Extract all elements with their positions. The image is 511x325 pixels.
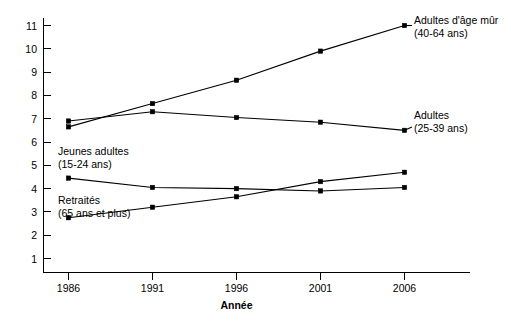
x-axis-title: Année	[220, 299, 252, 311]
y-tick-label: 2	[31, 229, 37, 241]
data-point	[318, 49, 322, 53]
chart-container: 11 10 9 8 7 6 5 4 3 2 1 1986 1991 1996 2…	[0, 0, 511, 325]
label-leader-lines	[405, 26, 413, 131]
series-layer	[66, 23, 406, 220]
data-point	[402, 128, 406, 132]
series-annotations: Adultes d'âge mûr (40-64 ans) Adultes (2…	[58, 14, 499, 219]
data-point	[150, 110, 154, 114]
data-point	[234, 186, 238, 190]
data-point	[66, 125, 70, 129]
y-tick-label: 8	[31, 89, 37, 101]
x-tick-label: 2006	[393, 282, 417, 294]
y-tick-label: 1	[31, 253, 37, 265]
label-retraites-line2: (65 ans et plus)	[58, 207, 130, 219]
label-retraites-line1: Retraités	[58, 194, 100, 206]
data-point	[150, 205, 154, 209]
data-point	[318, 189, 322, 193]
x-tick-label: 1986	[57, 282, 81, 294]
data-point	[234, 195, 238, 199]
x-tick-label: 1996	[225, 282, 249, 294]
series-line	[69, 26, 405, 127]
data-point	[150, 101, 154, 105]
label-adultes-age-mur-line1: Adultes d'âge mûr	[414, 14, 499, 26]
data-point	[402, 185, 406, 189]
y-axis-ticks	[44, 26, 51, 259]
data-point	[318, 120, 322, 124]
data-point	[402, 170, 406, 174]
data-point	[66, 176, 70, 180]
series-1	[66, 23, 406, 129]
data-point	[66, 119, 70, 123]
y-tick-label: 9	[31, 66, 37, 78]
label-adultes-line1: Adultes	[414, 109, 449, 121]
data-point	[150, 185, 154, 189]
label-adultes-line2: (25-39 ans)	[414, 122, 468, 134]
line-chart: 11 10 9 8 7 6 5 4 3 2 1 1986 1991 1996 2…	[0, 0, 511, 325]
y-tick-label: 7	[31, 113, 37, 125]
y-tick-label: 6	[31, 136, 37, 148]
data-point	[318, 179, 322, 183]
series-3	[66, 176, 406, 193]
y-tick-label: 10	[25, 43, 37, 55]
data-point	[234, 78, 238, 82]
y-tick-label: 3	[31, 206, 37, 218]
label-jeunes-adultes-line1: Jeunes adultes	[58, 145, 129, 157]
y-tick-label: 11	[26, 20, 37, 32]
y-tick-label: 4	[31, 183, 37, 195]
y-axis-tick-labels: 11 10 9 8 7 6 5 4 3 2 1	[25, 20, 37, 265]
label-adultes-age-mur-line2: (40-64 ans)	[414, 27, 468, 39]
label-jeunes-adultes-line2: (15-24 ans)	[58, 158, 112, 170]
x-axis-tick-labels: 1986 1991 1996 2001 2006	[57, 282, 417, 294]
y-tick-label: 5	[31, 159, 37, 171]
x-tick-label: 1991	[141, 282, 165, 294]
x-tick-label: 2001	[309, 282, 333, 294]
data-point	[234, 115, 238, 119]
series-line	[69, 112, 405, 131]
x-axis-ticks	[69, 273, 405, 280]
